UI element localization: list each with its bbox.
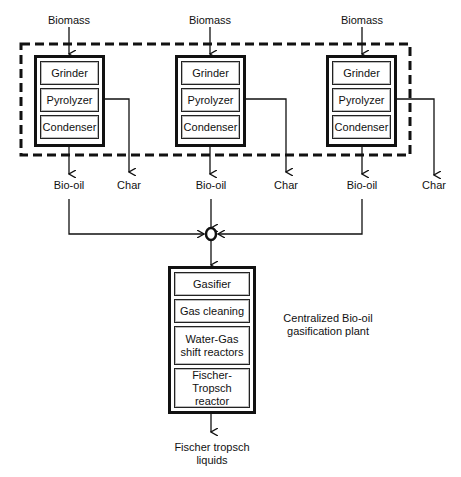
unit-2-biooil-label: Bio-oil (186, 179, 236, 192)
unit-1-pyrolyzer: Pyrolyzer (40, 88, 99, 112)
unit-1-box: Grinder Pyrolyzer Condenser (34, 55, 105, 147)
gasifier: Gasifier (174, 272, 250, 296)
unit-1-char-label: Char (109, 179, 149, 192)
unit-1-input-label: Biomass (39, 14, 99, 27)
central-plant-box: Gasifier Gas cleaning Water-Gas shift re… (168, 266, 256, 414)
unit-3-box: Grinder Pyrolyzer Condenser (326, 55, 397, 147)
water-gas-shift-reactors: Water-Gas shift reactors (174, 326, 250, 365)
unit-2-condenser: Condenser (181, 115, 240, 139)
unit-2-input-label: Biomass (180, 14, 240, 27)
merge-node (206, 228, 216, 240)
output-label: Fischer tropsch liquids (170, 441, 254, 467)
gas-cleaning: Gas cleaning (174, 299, 250, 323)
unit-3-biooil-label: Bio-oil (337, 179, 387, 192)
unit-3-grinder: Grinder (332, 61, 391, 85)
unit-3-condenser: Condenser (332, 115, 391, 139)
unit-2-char-label: Char (266, 179, 306, 192)
unit-3-pyrolyzer: Pyrolyzer (332, 88, 391, 112)
unit-2-pyrolyzer: Pyrolyzer (181, 88, 240, 112)
unit-3-char-label: Char (414, 179, 454, 192)
unit-1-biooil-label: Bio-oil (44, 179, 94, 192)
unit-3-input-label: Biomass (332, 14, 392, 27)
fischer-tropsch-reactor: Fischer-Tropsch reactor (174, 368, 250, 408)
unit-2-box: Grinder Pyrolyzer Condenser (175, 55, 246, 147)
unit-1-condenser: Condenser (40, 115, 99, 139)
unit-1-grinder: Grinder (40, 61, 99, 85)
central-plant-label: Centralized Bio-oil gasification plant (278, 312, 378, 338)
unit-2-grinder: Grinder (181, 61, 240, 85)
